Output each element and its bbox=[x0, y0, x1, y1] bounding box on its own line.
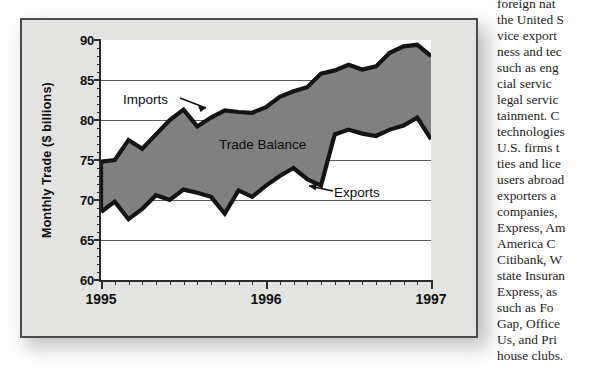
body-text-line: cial servic bbox=[497, 76, 606, 92]
body-text-line: the United S bbox=[497, 12, 606, 28]
y-tick-major-65 bbox=[94, 239, 101, 241]
y-tick-major-90 bbox=[94, 39, 101, 41]
x-axis-label-1995: 1995 bbox=[85, 291, 116, 307]
body-text-line: house clubs. bbox=[497, 348, 606, 364]
page-root: Monthly Trade ($ billions) 9085807570656… bbox=[0, 0, 606, 374]
chart-plot-svg bbox=[101, 40, 431, 280]
x-tick-minor bbox=[376, 280, 377, 285]
x-tick-minor bbox=[225, 280, 226, 285]
x-tick-minor bbox=[349, 280, 350, 285]
y-tick-label-75: 75 bbox=[80, 153, 94, 168]
body-text-line: ness and tec bbox=[497, 44, 606, 60]
x-tick-minor bbox=[321, 280, 322, 285]
x-tick-minor bbox=[417, 280, 418, 285]
x-tick-minor bbox=[252, 280, 253, 285]
y-tick-major-75 bbox=[94, 159, 101, 161]
body-text-line: tainment. C bbox=[497, 108, 606, 124]
body-text-line: such as Fo bbox=[497, 300, 606, 316]
x-tick-minor bbox=[362, 280, 363, 285]
x-tick-major bbox=[431, 280, 433, 289]
body-text-line: Citibank, W bbox=[497, 252, 606, 268]
y-tick-major-85 bbox=[94, 79, 101, 81]
body-paragraph: foreign natthe United Svice exportness a… bbox=[497, 0, 606, 364]
body-text-line: Express, as bbox=[497, 284, 606, 300]
body-text-line: such as eng bbox=[497, 60, 606, 76]
y-tick-label-80: 80 bbox=[80, 113, 94, 128]
body-text-line: legal servic bbox=[497, 92, 606, 108]
plot-area: 90858075706560 199519961997 bbox=[99, 40, 431, 282]
x-tick-minor bbox=[184, 280, 185, 285]
x-tick-minor bbox=[404, 280, 405, 285]
x-tick-minor bbox=[170, 280, 171, 285]
x-tick-major bbox=[101, 280, 103, 289]
body-text-line: Us, and Pri bbox=[497, 332, 606, 348]
x-tick-minor bbox=[142, 280, 143, 285]
body-text-line: foreign nat bbox=[497, 0, 606, 12]
body-text-column: foreign natthe United Svice exportness a… bbox=[497, 0, 606, 374]
body-text-line: U.S. firms t bbox=[497, 140, 606, 156]
x-tick-minor bbox=[156, 280, 157, 285]
y-tick-major-80 bbox=[94, 119, 101, 121]
figure-frame: Monthly Trade ($ billions) 9085807570656… bbox=[20, 18, 478, 338]
body-text-line: state Insuran bbox=[497, 268, 606, 284]
body-text-line: technologies bbox=[497, 124, 606, 140]
body-text-line: vice export bbox=[497, 28, 606, 44]
x-axis-label-1996: 1996 bbox=[250, 291, 281, 307]
x-tick-minor bbox=[294, 280, 295, 285]
y-axis-title: Monthly Trade ($ billions) bbox=[36, 40, 58, 280]
body-text-line: Express, Am bbox=[497, 220, 606, 236]
body-text-line: Gap, Office bbox=[497, 316, 606, 332]
body-text-line: exporters a bbox=[497, 188, 606, 204]
body-text-line: companies, bbox=[497, 204, 606, 220]
x-tick-minor bbox=[197, 280, 198, 285]
x-tick-minor bbox=[211, 280, 212, 285]
body-text-line: America C bbox=[497, 236, 606, 252]
y-tick-label-85: 85 bbox=[80, 73, 94, 88]
y-tick-label-90: 90 bbox=[80, 33, 94, 48]
y-tick-label-70: 70 bbox=[80, 193, 94, 208]
x-tick-minor bbox=[129, 280, 130, 285]
x-tick-minor bbox=[390, 280, 391, 285]
x-tick-minor bbox=[239, 280, 240, 285]
x-axis-label-1997: 1997 bbox=[415, 291, 446, 307]
x-tick-minor bbox=[280, 280, 281, 285]
x-tick-major bbox=[266, 280, 268, 289]
x-tick-minor bbox=[335, 280, 336, 285]
y-tick-label-65: 65 bbox=[80, 233, 94, 248]
chart-figure: Monthly Trade ($ billions) 9085807570656… bbox=[0, 0, 500, 374]
trade-balance-label: Trade Balance bbox=[219, 137, 306, 152]
y-tick-label-60: 60 bbox=[80, 273, 94, 288]
exports-series-label: Exports bbox=[334, 185, 380, 200]
imports-series-label: Imports bbox=[123, 92, 168, 107]
y-tick-major-60 bbox=[94, 279, 101, 281]
y-tick-major-70 bbox=[94, 199, 101, 201]
body-text-line: users abroad bbox=[497, 172, 606, 188]
body-text-line: ties and lice bbox=[497, 156, 606, 172]
x-tick-minor bbox=[307, 280, 308, 285]
y-axis-title-text: Monthly Trade ($ billions) bbox=[40, 82, 54, 238]
x-tick-minor bbox=[115, 280, 116, 285]
